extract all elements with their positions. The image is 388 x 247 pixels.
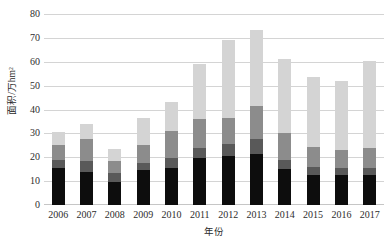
bar-segment-series-4 bbox=[363, 61, 376, 148]
bar-segment-series-1 bbox=[137, 170, 150, 205]
bar-segment-series-2 bbox=[250, 139, 263, 153]
x-axis-tick-label: 2015 bbox=[299, 207, 327, 223]
bar-segment-series-2 bbox=[137, 163, 150, 170]
plot-area bbox=[44, 14, 384, 205]
stacked-bar-chart: 面积/万hm² 01020304050607080 20062007200820… bbox=[0, 0, 388, 247]
bar-segment-series-3 bbox=[278, 133, 291, 159]
bar-slot bbox=[101, 14, 129, 205]
bar-segment-series-1 bbox=[165, 168, 178, 205]
bar-segment-series-3 bbox=[193, 119, 206, 148]
bar-group bbox=[44, 14, 384, 205]
bar-segment-series-2 bbox=[335, 168, 348, 175]
x-axis-title: 年份 bbox=[44, 224, 384, 238]
y-axis-tick-label: 70 bbox=[30, 32, 40, 44]
y-axis-tick-label: 0 bbox=[35, 199, 40, 211]
x-axis-tick-label: 2013 bbox=[242, 207, 270, 223]
bar-segment-series-3 bbox=[52, 145, 65, 159]
bar-segment-series-4 bbox=[307, 77, 320, 146]
x-axis-tick-labels: 2006200720082009201020112012201320142015… bbox=[44, 207, 384, 223]
stacked-bar[interactable] bbox=[165, 102, 178, 205]
bar-slot bbox=[356, 14, 384, 205]
stacked-bar[interactable] bbox=[108, 149, 121, 205]
y-axis-tick-label: 40 bbox=[30, 104, 40, 116]
bar-segment-series-3 bbox=[165, 131, 178, 158]
bar-segment-series-1 bbox=[278, 169, 291, 205]
bar-segment-series-2 bbox=[165, 158, 178, 168]
x-axis-tick-label: 2016 bbox=[327, 207, 355, 223]
bar-segment-series-3 bbox=[80, 139, 93, 160]
y-axis-tick-label: 30 bbox=[30, 127, 40, 139]
bar-slot bbox=[157, 14, 185, 205]
x-axis-tick-label: 2007 bbox=[72, 207, 100, 223]
bar-segment-series-1 bbox=[52, 168, 65, 205]
bar-segment-series-4 bbox=[250, 30, 263, 106]
bar-segment-series-4 bbox=[222, 40, 235, 118]
bar-segment-series-3 bbox=[363, 148, 376, 168]
bar-segment-series-1 bbox=[108, 182, 121, 205]
bar-slot bbox=[44, 14, 72, 205]
bar-segment-series-4 bbox=[52, 132, 65, 145]
bar-segment-series-3 bbox=[222, 118, 235, 144]
stacked-bar[interactable] bbox=[363, 61, 376, 205]
bar-segment-series-4 bbox=[80, 124, 93, 140]
bar-segment-series-1 bbox=[193, 158, 206, 205]
bar-segment-series-1 bbox=[80, 172, 93, 205]
x-axis-tick-label: 2011 bbox=[186, 207, 214, 223]
bar-slot bbox=[327, 14, 355, 205]
bar-slot bbox=[271, 14, 299, 205]
x-axis-tick-label: 2010 bbox=[157, 207, 185, 223]
bar-segment-series-3 bbox=[250, 106, 263, 139]
y-axis-tick-label: 80 bbox=[30, 8, 40, 20]
bar-segment-series-3 bbox=[137, 145, 150, 163]
bar-segment-series-1 bbox=[335, 175, 348, 205]
bar-segment-series-1 bbox=[363, 175, 376, 205]
stacked-bar[interactable] bbox=[307, 77, 320, 205]
x-axis-tick-label: 2009 bbox=[129, 207, 157, 223]
bar-slot bbox=[129, 14, 157, 205]
bar-segment-series-2 bbox=[193, 148, 206, 159]
stacked-bar[interactable] bbox=[137, 118, 150, 205]
bar-segment-series-2 bbox=[307, 167, 320, 175]
bar-segment-series-1 bbox=[250, 154, 263, 205]
stacked-bar[interactable] bbox=[335, 81, 348, 205]
y-axis-tick-label: 20 bbox=[30, 151, 40, 163]
stacked-bar[interactable] bbox=[193, 64, 206, 205]
bar-segment-series-4 bbox=[165, 102, 178, 131]
bar-slot bbox=[186, 14, 214, 205]
bar-segment-series-2 bbox=[222, 144, 235, 156]
bar-segment-series-3 bbox=[307, 147, 320, 167]
bar-segment-series-2 bbox=[52, 160, 65, 168]
x-axis-tick-label: 2008 bbox=[101, 207, 129, 223]
bar-segment-series-4 bbox=[335, 81, 348, 150]
bar-segment-series-2 bbox=[363, 168, 376, 175]
bar-segment-series-1 bbox=[222, 156, 235, 205]
x-axis-tick-label: 2006 bbox=[44, 207, 72, 223]
stacked-bar[interactable] bbox=[278, 59, 291, 205]
y-axis-tick-label: 60 bbox=[30, 56, 40, 68]
x-axis-tick-label: 2014 bbox=[271, 207, 299, 223]
y-axis-tick-label: 10 bbox=[30, 175, 40, 187]
bar-segment-series-2 bbox=[278, 160, 291, 170]
y-axis-tick-labels: 01020304050607080 bbox=[0, 0, 44, 247]
x-axis-tick-label: 2012 bbox=[214, 207, 242, 223]
bar-slot bbox=[299, 14, 327, 205]
bar-segment-series-3 bbox=[335, 150, 348, 168]
bar-slot bbox=[72, 14, 100, 205]
bar-segment-series-2 bbox=[80, 161, 93, 172]
stacked-bar[interactable] bbox=[222, 40, 235, 205]
bar-segment-series-1 bbox=[307, 175, 320, 205]
bar-slot bbox=[214, 14, 242, 205]
y-axis-tick-label: 50 bbox=[30, 80, 40, 92]
bar-segment-series-4 bbox=[278, 59, 291, 133]
bar-segment-series-4 bbox=[137, 118, 150, 145]
stacked-bar[interactable] bbox=[250, 30, 263, 205]
bar-segment-series-2 bbox=[108, 173, 121, 183]
bar-segment-series-4 bbox=[108, 149, 121, 161]
x-axis-tick-label: 2017 bbox=[356, 207, 384, 223]
bar-segment-series-4 bbox=[193, 64, 206, 119]
stacked-bar[interactable] bbox=[52, 132, 65, 205]
bar-segment-series-3 bbox=[108, 161, 121, 173]
bar-slot bbox=[242, 14, 270, 205]
stacked-bar[interactable] bbox=[80, 124, 93, 205]
